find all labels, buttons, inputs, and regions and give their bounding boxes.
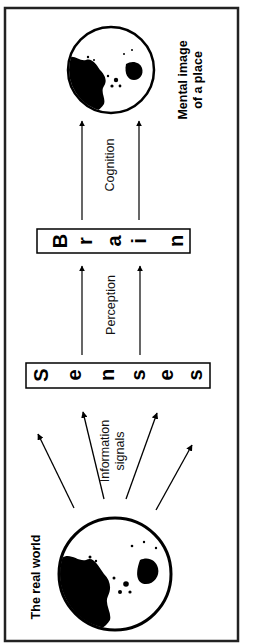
brain-letter-n: n	[165, 235, 187, 247]
svg-text:of a place: of a place	[191, 51, 205, 109]
signal-arrow-3	[126, 413, 157, 499]
svg-text:signals: signals	[113, 432, 127, 471]
brain-letter-i: i	[128, 238, 150, 244]
senses-box: S e n s e s	[26, 363, 210, 388]
senses-letter-e2: e	[155, 369, 177, 380]
svg-text:Information: Information	[98, 420, 112, 483]
brain-letter-b: B	[49, 234, 71, 248]
senses-letter-s3: s	[184, 369, 206, 380]
real-world-globe-icon	[59, 518, 171, 633]
brain-box: B r a i n	[37, 229, 190, 253]
signal-arrow-1	[38, 434, 74, 508]
senses-letter-s1: S	[30, 368, 52, 381]
perception-diagram: Mental image of a place Cognition B r a …	[0, 0, 253, 643]
real-world-label: The real world	[29, 535, 43, 620]
cognition-label: Cognition	[103, 139, 117, 192]
mental-image-globe-icon	[67, 27, 155, 116]
perception-label: Perception	[104, 275, 118, 335]
senses-letter-n: n	[96, 369, 118, 381]
signal-arrow-4	[156, 445, 192, 510]
senses-letter-s2: s	[127, 369, 149, 380]
information-signals-label: Information signals	[98, 420, 127, 483]
svg-text:Mental image: Mental image	[176, 40, 190, 119]
senses-letter-e1: e	[63, 369, 85, 380]
mental-image-label: Mental image of a place	[176, 40, 205, 119]
brain-letter-r: r	[74, 237, 96, 245]
brain-letter-a: a	[103, 235, 125, 247]
